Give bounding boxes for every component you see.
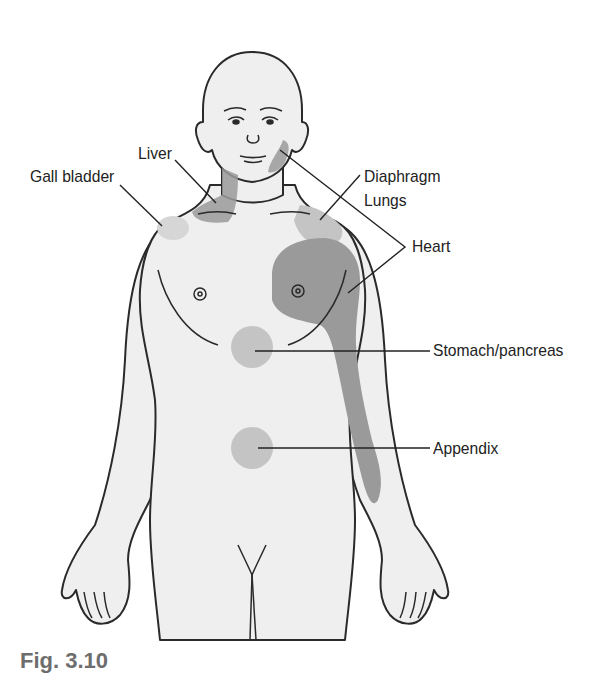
label-lungs: Lungs xyxy=(364,192,407,209)
label-diaphragm: Diaphragm xyxy=(364,168,441,185)
label-heart: Heart xyxy=(412,238,450,255)
label-stomach-pancreas: Stomach/pancreas xyxy=(433,342,563,359)
figure-caption: Fig. 3.10 xyxy=(20,648,108,674)
leader-liver xyxy=(175,160,216,203)
label-liver: Liver xyxy=(138,145,172,162)
leader-gall-bladder xyxy=(120,185,162,226)
label-appendix: Appendix xyxy=(433,440,498,457)
zone-gall-bladder xyxy=(157,216,189,240)
leader-diaphragm-lungs xyxy=(320,175,360,220)
label-gall-bladder: Gall bladder xyxy=(30,168,114,185)
zone-stomach-pancreas xyxy=(231,326,273,368)
